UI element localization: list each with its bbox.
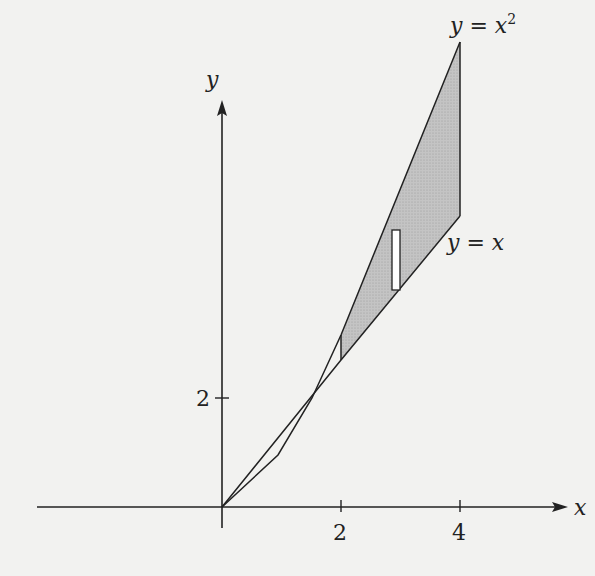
x-axis — [37, 500, 568, 512]
x-tick-label-2: 2 — [333, 520, 347, 545]
shaded-region — [341, 42, 460, 360]
diagram-canvas: y x 2 4 2 y = x2 y = x — [0, 0, 595, 576]
x-tick-label-4: 4 — [452, 520, 466, 545]
line-label: y = x — [446, 230, 505, 255]
y-axis-label: y — [205, 67, 219, 92]
line-y-equals-x — [222, 216, 460, 507]
representative-rectangle — [392, 230, 400, 290]
parabola-label: y = x2 — [449, 11, 516, 38]
y-tick-label-2: 2 — [196, 386, 210, 411]
curve-y-equals-x-squared — [222, 42, 460, 507]
y-axis — [215, 100, 229, 528]
x-axis-label: x — [574, 495, 587, 520]
